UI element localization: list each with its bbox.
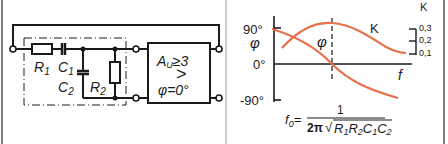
amplifier-symbol: > [176,64,187,84]
phi-curve-label: φ [317,33,327,50]
label-c1: C1 [58,59,74,77]
terminal-in [10,46,16,52]
tick-0: 0° [253,57,265,72]
wien-bridge-figure: R1 C1 C2 R2 AU≥3 > φ=0° 90° φ 0° -90° φ … [0,0,448,144]
k-curve [282,23,406,53]
resonance-formula: f0= 1 2π √ R1R2C1C2 [285,103,392,137]
label-r1: R1 [34,59,50,77]
k-tick-03: 0,3 [419,23,432,33]
phase-label: φ=0° [158,82,189,98]
resistor-r1 [32,44,52,54]
formula-lhs: f0= [285,112,302,129]
formula-2pi: 2π [307,121,323,135]
sqrt-symbol: √ [325,120,333,135]
x-axis-label: f [398,67,404,83]
label-r2: R2 [90,79,106,97]
k-tick-01: 0,1 [419,48,432,58]
tick-minus-90: -90° [240,93,264,108]
resistor-r2 [110,62,120,83]
formula-root: R1R2C1C2 [334,121,392,137]
chart: 90° φ 0° -90° φ K f K 0,3 0,2 0,1 [240,1,432,108]
k-curve-label: K [370,21,379,36]
phi-axis-label: φ [250,34,260,51]
component-labels: R1 C1 C2 R2 [34,59,106,97]
k-axis-label: K [420,1,428,13]
formula-numerator: 1 [337,103,344,117]
label-c2: C2 [58,79,74,97]
k-tick-02: 0,2 [419,35,432,45]
